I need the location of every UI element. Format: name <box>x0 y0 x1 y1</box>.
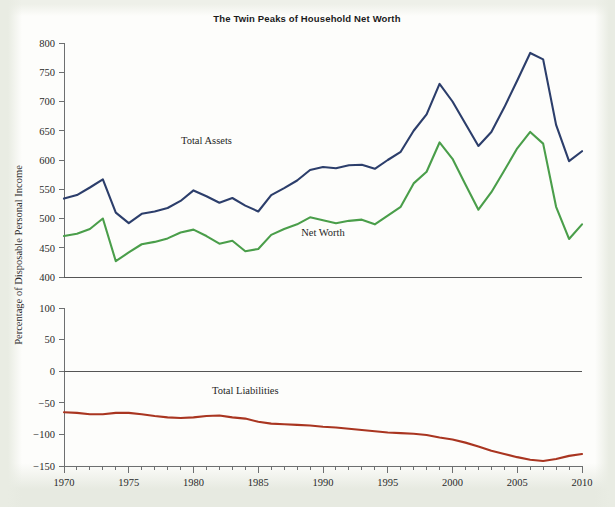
x-tick-label: 1970 <box>54 477 75 488</box>
y-tick-label: 0 <box>50 366 55 377</box>
y-tick-label: −150 <box>33 461 55 472</box>
x-tick-label: 1995 <box>377 477 398 488</box>
y-tick-label: 50 <box>45 334 56 345</box>
upper-panel: 400450500550600650700750800Total AssetsN… <box>39 38 582 283</box>
y-tick-label: 750 <box>39 67 55 78</box>
y-tick-label: 400 <box>39 272 55 283</box>
y-tick-label: −100 <box>33 429 55 440</box>
series-label-total-assets: Total Assets <box>181 135 232 146</box>
y-tick-label: 500 <box>39 213 55 224</box>
x-tick-label: 1985 <box>248 477 269 488</box>
chart-title: The Twin Peaks of Household Net Worth <box>213 13 400 24</box>
chart-svg: The Twin Peaks of Household Net Worth Pe… <box>0 0 615 507</box>
y-tick-label: 650 <box>39 126 55 137</box>
x-tick-label: 2010 <box>572 477 593 488</box>
series-label-total-liabilities: Total Liabilities <box>212 385 279 396</box>
x-axis: 197019751980198519901995200020052010 <box>54 466 593 488</box>
y-tick-label: 800 <box>39 38 55 49</box>
x-tick-label: 2005 <box>507 477 528 488</box>
y-tick-label: −50 <box>39 398 55 409</box>
series-label-net-worth: Net Worth <box>301 227 345 238</box>
figure-root: The Twin Peaks of Household Net Worth Pe… <box>0 0 615 507</box>
x-tick-label: 1990 <box>313 477 334 488</box>
y-axis-title: Percentage of Disposable Personal Income <box>13 165 24 345</box>
series-line-total-liabilities <box>64 412 582 461</box>
y-tick-label: 450 <box>39 243 55 254</box>
lower-panel: −150−100−50050100Total Liabilities <box>33 303 582 472</box>
x-tick-label: 2000 <box>442 477 463 488</box>
y-tick-label: 550 <box>39 184 55 195</box>
series-line-total-assets <box>64 53 582 223</box>
y-tick-label: 700 <box>39 96 55 107</box>
series-line-net-worth <box>64 132 582 261</box>
x-tick-label: 1980 <box>183 477 204 488</box>
x-tick-label: 1975 <box>118 477 139 488</box>
y-tick-label: 600 <box>39 155 55 166</box>
svg-text:Percentage of Disposable Perso: Percentage of Disposable Personal Income <box>13 165 24 345</box>
y-tick-label: 100 <box>39 303 55 314</box>
